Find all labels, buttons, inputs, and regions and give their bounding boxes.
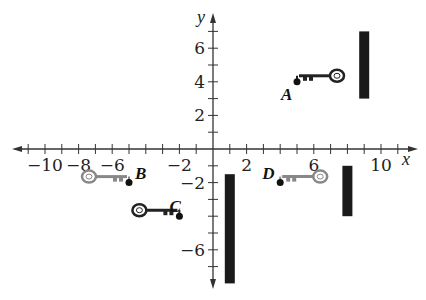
y-tick-label: 6 <box>194 38 205 58</box>
key-c: C <box>132 197 183 220</box>
point-label: D <box>261 164 274 183</box>
point-b <box>126 179 133 186</box>
y-arrow-up-icon <box>210 13 216 23</box>
y-tick-label: 4 <box>194 72 205 92</box>
y-axis-label: y <box>195 7 205 27</box>
key-bow-hole <box>334 73 340 78</box>
x-arrow-left-icon <box>12 146 22 152</box>
key-tooth <box>113 177 117 182</box>
point-d <box>277 179 284 186</box>
mirror-bar <box>225 174 235 283</box>
x-axis-label: x <box>401 149 410 169</box>
key-a: A <box>280 70 344 104</box>
key-bow-hole <box>317 174 323 179</box>
key-tooth <box>292 177 296 182</box>
axes <box>12 13 418 289</box>
key-bow-icon <box>330 70 344 82</box>
key-tooth <box>286 177 290 182</box>
key-tooth <box>309 76 313 81</box>
mirror-bar <box>342 166 352 216</box>
key-tooth <box>163 210 167 215</box>
y-arrow-down-icon <box>210 279 216 289</box>
y-tick-label: 2 <box>194 105 205 125</box>
key-tooth <box>119 177 123 182</box>
y-tick-label: −2 <box>180 173 205 193</box>
key-bow-icon <box>313 171 327 183</box>
point-label: A <box>280 85 292 104</box>
key-bow-hole <box>136 208 142 213</box>
key-tooth <box>303 76 307 81</box>
point-a <box>294 78 301 85</box>
ticks: xy−10−8−6−22610642−2−6 <box>27 7 410 267</box>
point-label: C <box>169 197 181 216</box>
x-tick-label: 2 <box>241 155 252 175</box>
mirror-bar <box>359 31 369 98</box>
coordinate-plane-figure: xy−10−8−6−22610642−2−6 ABCD <box>0 0 426 300</box>
x-tick-label: −6 <box>100 155 125 175</box>
y-tick-label: −6 <box>180 240 205 260</box>
coordinate-plane: xy−10−8−6−22610642−2−6 ABCD <box>0 0 426 300</box>
point-label: B <box>134 164 146 183</box>
x-tick-label: −10 <box>27 155 63 175</box>
x-tick-label: 10 <box>370 155 392 175</box>
key-bow-icon <box>132 204 146 216</box>
